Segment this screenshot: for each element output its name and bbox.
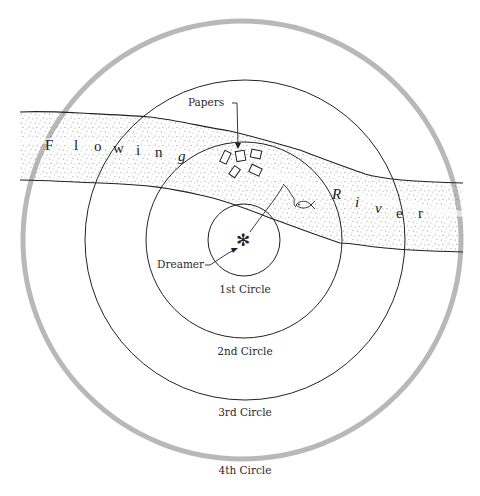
- svg-text:R: R: [331, 186, 341, 202]
- dreamer-symbol-icon: ✻: [236, 230, 250, 250]
- dreamer-leader-line: [205, 250, 234, 265]
- svg-text:r: r: [418, 205, 423, 221]
- svg-text:i: i: [136, 142, 140, 158]
- svg-text:i: i: [355, 194, 359, 210]
- dream-circles-diagram: ✻ Papers Dreamer F l o w i n g R i v e r…: [0, 0, 480, 496]
- dreamer-arrow-icon: [231, 248, 238, 253]
- svg-text:g: g: [178, 148, 186, 164]
- svg-text:w: w: [113, 140, 124, 156]
- dreamer-label: Dreamer: [157, 258, 205, 270]
- circle-2-label: 2nd Circle: [217, 345, 272, 357]
- svg-text:o: o: [94, 138, 102, 154]
- papers-label: Papers: [188, 96, 224, 108]
- svg-text:n: n: [155, 144, 163, 160]
- circle-1-label: 1st Circle: [219, 283, 271, 295]
- circle-4-label: 4th Circle: [219, 464, 272, 476]
- svg-text:e: e: [396, 205, 403, 221]
- svg-text:v: v: [375, 200, 382, 216]
- svg-text:F: F: [45, 137, 53, 153]
- svg-text:l: l: [74, 137, 78, 153]
- circle-3-label: 3rd Circle: [218, 406, 272, 418]
